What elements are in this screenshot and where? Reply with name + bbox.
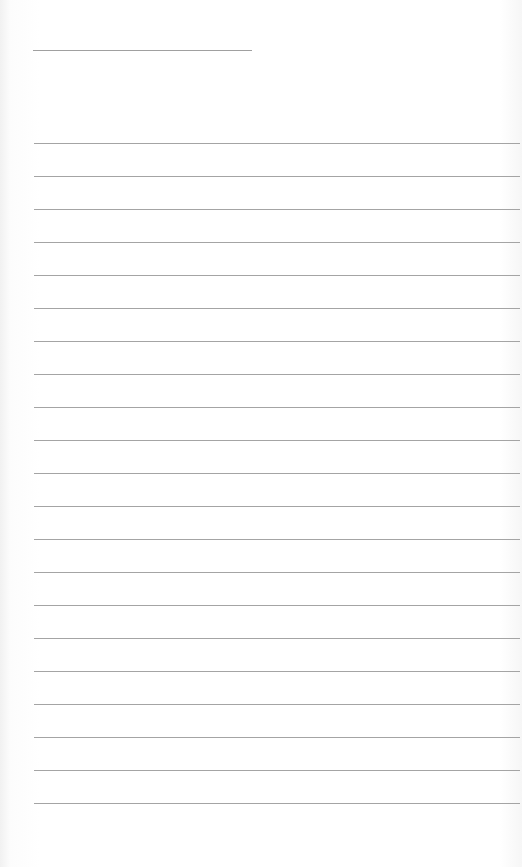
ruled-line: [34, 143, 520, 144]
ruled-line: [34, 209, 520, 210]
ruled-line: [34, 407, 520, 408]
ruled-line: [34, 671, 520, 672]
ruled-line: [34, 803, 520, 804]
ruled-line: [34, 638, 520, 639]
ruled-line: [34, 605, 520, 606]
ruled-line: [34, 242, 520, 243]
ruled-line: [34, 704, 520, 705]
ruled-line: [34, 440, 520, 441]
ruled-line: [34, 341, 520, 342]
ruled-line: [34, 308, 520, 309]
ruled-line: [34, 770, 520, 771]
ruled-line: [34, 506, 520, 507]
ruled-line: [34, 473, 520, 474]
ruled-line: [34, 539, 520, 540]
lined-paper-page: [0, 0, 522, 867]
ruled-line: [34, 275, 520, 276]
ruled-line: [34, 374, 520, 375]
ruled-line: [34, 737, 520, 738]
ruled-line: [34, 176, 520, 177]
ruled-line: [34, 572, 520, 573]
title-line: [33, 50, 252, 51]
